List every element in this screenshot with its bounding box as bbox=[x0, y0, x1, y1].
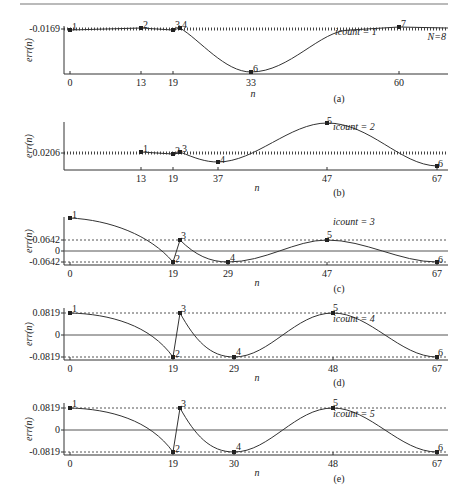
point-label: 3 bbox=[182, 143, 187, 154]
point-label: 2 bbox=[175, 253, 180, 264]
x-axis-label: n bbox=[255, 182, 260, 193]
x-tick-label: 13 bbox=[136, 77, 146, 88]
x-tick-label: 30 bbox=[229, 458, 239, 469]
icount-annotation: icount = 4 bbox=[333, 313, 375, 324]
point-label: 2 bbox=[175, 348, 180, 359]
point-label: 3 bbox=[175, 19, 180, 30]
y-tick-label: 0.0819 bbox=[33, 307, 61, 318]
x-tick-label: 67 bbox=[432, 268, 442, 279]
point-label: 3 bbox=[181, 303, 186, 314]
icount-annotation: icount = 5 bbox=[333, 408, 375, 419]
point-label: 5 bbox=[333, 302, 338, 313]
point-label: 6 bbox=[253, 63, 258, 74]
panel-a: -0.0169 0 13 19 33 60 1 2 3 4 6 7 icount… bbox=[23, 18, 448, 105]
x-tick-label: 67 bbox=[432, 363, 442, 374]
point-label: 1 bbox=[72, 21, 77, 32]
panel-e: 0.0819 0 -0.0819 0 19 30 48 67 1 2 3 4 5… bbox=[23, 397, 448, 485]
x-tick-label: 60 bbox=[394, 77, 404, 88]
point-label: 2 bbox=[175, 443, 180, 454]
y-tick-label: -0.0642 bbox=[29, 256, 60, 267]
point-label: 1 bbox=[143, 143, 148, 154]
x-tick-label: 19 bbox=[168, 173, 178, 184]
icount-annotation: icount = 2 bbox=[333, 121, 375, 132]
point-label: 6 bbox=[438, 254, 443, 265]
x-axis-label: n bbox=[251, 88, 256, 99]
y-axis-label: err(n) bbox=[23, 321, 35, 346]
point-label: 7 bbox=[401, 18, 406, 29]
x-tick-label: 0 bbox=[68, 363, 73, 374]
icount-annotation: icount = 1 bbox=[335, 26, 377, 37]
y-tick-label: -0.0819 bbox=[29, 446, 60, 457]
x-tick-label: 0 bbox=[68, 77, 73, 88]
y-axis-label: err(n) bbox=[23, 37, 35, 62]
point-label: 1 bbox=[72, 209, 77, 220]
x-axis-label: n bbox=[255, 372, 260, 383]
point-label: 4 bbox=[236, 441, 241, 452]
x-tick-label: 33 bbox=[246, 77, 256, 88]
point-label: 4 bbox=[236, 346, 241, 357]
panel-caption: (d) bbox=[333, 377, 345, 389]
icount-annotation: icount = 3 bbox=[333, 216, 375, 227]
y-axis-label: err(n) bbox=[23, 416, 35, 441]
point-label: 5 bbox=[333, 397, 338, 408]
panel-caption: (a) bbox=[333, 93, 344, 105]
x-tick-label: 13 bbox=[136, 173, 146, 184]
y-tick-label: 0 bbox=[55, 245, 60, 256]
y-axis-label: err(n) bbox=[23, 228, 35, 253]
y-tick-label: 0.0206 bbox=[33, 147, 61, 158]
x-tick-label: 19 bbox=[168, 268, 178, 279]
panel-c: 0.0642 0 -0.0642 0 19 29 47 67 1 2 3 4 5… bbox=[23, 209, 448, 295]
x-tick-label: 29 bbox=[229, 363, 239, 374]
point-label: 4 bbox=[230, 252, 235, 263]
x-axis-label: n bbox=[255, 467, 260, 478]
x-tick-label: 0 bbox=[68, 268, 73, 279]
point-label: 3 bbox=[181, 230, 186, 241]
point-label: 4 bbox=[182, 19, 187, 30]
point-label: 4 bbox=[220, 154, 225, 165]
point-label: 6 bbox=[438, 347, 443, 358]
panel-b: 0.0206 13 19 37 47 67 1 2 3 4 5 6 icount… bbox=[23, 115, 448, 199]
y-tick-label: -0.0819 bbox=[29, 351, 60, 362]
x-tick-label: 0 bbox=[68, 458, 73, 469]
x-tick-label: 47 bbox=[322, 268, 332, 279]
panel-caption: (c) bbox=[333, 283, 344, 295]
x-tick-label: 67 bbox=[432, 458, 442, 469]
x-tick-label: 37 bbox=[213, 173, 223, 184]
x-tick-label: 48 bbox=[328, 458, 338, 469]
x-tick-label: 29 bbox=[223, 268, 233, 279]
point-label: 6 bbox=[438, 442, 443, 453]
x-tick-label: 67 bbox=[432, 173, 442, 184]
point-label: 5 bbox=[327, 115, 332, 126]
point-label: 1 bbox=[72, 398, 77, 409]
x-tick-label: 47 bbox=[322, 173, 332, 184]
x-tick-label: 19 bbox=[168, 458, 178, 469]
point-label: 5 bbox=[327, 229, 332, 240]
point-label: 1 bbox=[72, 303, 77, 314]
y-tick-label: 0 bbox=[55, 424, 60, 435]
point-label: 6 bbox=[438, 158, 443, 169]
y-tick-label: 0.0819 bbox=[33, 402, 61, 413]
point-label: 3 bbox=[181, 398, 186, 409]
y-tick-label: 0 bbox=[55, 329, 60, 340]
n-annotation: N=8 bbox=[427, 31, 446, 42]
panel-caption: (b) bbox=[333, 187, 345, 199]
x-axis-label: n bbox=[255, 277, 260, 288]
x-tick-label: 19 bbox=[168, 77, 178, 88]
y-axis-label: err(n) bbox=[23, 133, 35, 158]
point-label: 2 bbox=[175, 145, 180, 156]
error-curve bbox=[70, 27, 448, 72]
x-tick-label: 19 bbox=[168, 363, 178, 374]
figure: -0.0169 0 13 19 33 60 1 2 3 4 6 7 icount… bbox=[0, 0, 468, 500]
panel-d: 0.0819 0 -0.0819 0 19 29 48 67 1 2 3 4 5… bbox=[23, 302, 448, 389]
y-tick-label: -0.0169 bbox=[29, 23, 60, 34]
y-tick-label: 0.0642 bbox=[33, 234, 61, 245]
point-label: 2 bbox=[143, 19, 148, 30]
panel-caption: (e) bbox=[333, 473, 344, 485]
x-tick-label: 48 bbox=[328, 363, 338, 374]
